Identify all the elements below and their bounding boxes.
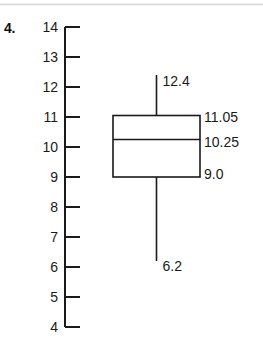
q3-value-label: 11.05 [204, 110, 238, 124]
median-value-label: 10.25 [204, 135, 239, 149]
y-axis-tick-label: 8 [24, 200, 58, 214]
y-axis-tick-label: 5 [24, 290, 58, 304]
minimum-value-label: 6.2 [163, 259, 182, 273]
box-plot-figure: 4. 1413121110987654 12.411.0510.259.06.2 [0, 0, 263, 348]
y-axis-tick-label: 6 [24, 260, 58, 274]
y-axis-tick-label: 13 [24, 50, 58, 64]
box-plot-glyph [113, 75, 200, 261]
y-axis-tick-label: 14 [24, 20, 58, 34]
y-axis-tick-label: 9 [24, 170, 58, 184]
y-axis-tick-label: 11 [24, 110, 58, 124]
q1-value-label: 9.0 [204, 167, 223, 181]
y-axis [65, 27, 80, 327]
y-axis-tick-label: 4 [24, 320, 58, 334]
maximum-value-label: 12.4 [163, 74, 190, 88]
y-axis-tick-label: 12 [24, 80, 58, 94]
box-iqr-rect [113, 116, 200, 178]
y-axis-tick-label: 7 [24, 230, 58, 244]
y-axis-tick-label: 10 [24, 140, 58, 154]
